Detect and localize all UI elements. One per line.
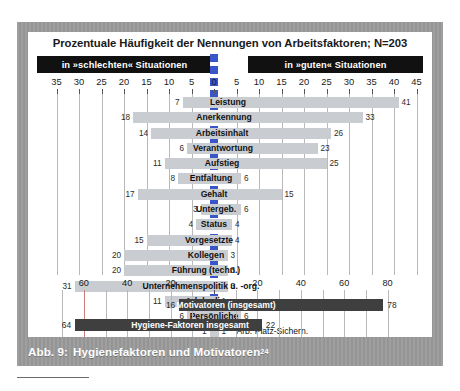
summary-value-positive: 22	[262, 318, 275, 332]
value-label-positive: 15	[282, 188, 294, 201]
summary-value-positive: 78	[383, 298, 396, 312]
legend-band-schlechte-situationen: in »schlechten« Situationen	[37, 56, 212, 73]
bottom-axis-tick-label: 60	[79, 278, 89, 288]
chart-row: 154Vorgesetzte	[28, 233, 432, 248]
chart-row: 44Status	[28, 217, 432, 232]
value-label-negative: 8	[170, 172, 178, 185]
figure-caption: Abb. 9: Hygienefaktoren und Motivatoren …	[28, 340, 432, 362]
value-label-negative: 15	[134, 234, 146, 247]
caption-number: Abb. 9:	[28, 345, 68, 358]
footnote-rule	[17, 377, 89, 378]
category-label: Kollegen	[188, 249, 224, 262]
category-label: Vorgesetzte	[185, 234, 233, 247]
category-label: Entfaltung	[190, 172, 232, 185]
value-label-negative: 18	[121, 111, 133, 124]
value-label-positive: 4	[232, 234, 240, 247]
top-axis-tick-label: 20	[299, 76, 309, 87]
bottom-axis-tick-label: 60	[339, 278, 349, 288]
value-label-positive: 6	[241, 172, 249, 185]
value-label-positive: 6	[241, 203, 249, 216]
chart-row: 36Untergeb.	[28, 202, 432, 217]
top-axis-tick-label: 5	[234, 76, 239, 87]
chart-row: 741Leistung	[28, 95, 432, 110]
summary-row: 6422Hygiene-Faktoren insgesamt	[28, 316, 432, 336]
value-label-negative: 17	[125, 188, 137, 201]
top-axis-tick-label: 20	[119, 76, 129, 87]
top-axis: 3530252015105051015202530354045	[28, 76, 432, 94]
category-label: Anerkennung	[196, 111, 251, 124]
chart-row: 1833Anerkennung	[28, 110, 432, 125]
category-label: Aufstieg	[205, 157, 239, 170]
value-label-negative: 14	[139, 127, 151, 140]
bottom-axis-tick-label: 20	[165, 278, 175, 288]
value-label-positive: 3	[228, 249, 236, 262]
value-label-negative: 6	[179, 142, 187, 155]
summary-category-label: Motivatoren (insgesamt)	[176, 298, 275, 312]
summary-rows: 1678Motivatoren (insgesamt)6422Hygiene-F…	[28, 296, 432, 336]
bottom-axis-tick-label: 20	[252, 278, 262, 288]
chart-row: 203Kollegen	[28, 248, 432, 263]
summary-category-label: Hygiene-Faktoren insgesamt	[131, 318, 248, 332]
chart-row: 86Entfaltung	[28, 171, 432, 186]
top-axis-tick-label: 35	[366, 76, 376, 87]
legend-band-left-label: in »schlechten« Situationen	[62, 60, 188, 70]
chart-title: Prozentuale Häufigkeit der Nennungen von…	[28, 37, 432, 49]
value-label-negative: 11	[153, 157, 165, 170]
caption-footnote-marker: 24	[260, 347, 268, 356]
bottom-axis-tick-label: 40	[122, 278, 132, 288]
summary-value-negative: 64	[62, 318, 75, 332]
value-label-negative: 20	[112, 264, 124, 277]
chart-row: 1715Gehalt	[28, 187, 432, 202]
category-label: Führung (techn.)	[172, 264, 240, 277]
top-axis-tick-label: 10	[164, 76, 174, 87]
figure-mount: Prozentuale Häufigkeit der Nennungen von…	[17, 22, 443, 366]
value-label-negative: 20	[112, 249, 124, 262]
value-label-negative: 4	[188, 218, 196, 231]
bottom-axis-tick-label: 40	[296, 278, 306, 288]
value-label-positive: 25	[327, 157, 339, 170]
value-label-positive: 41	[399, 96, 411, 109]
top-axis-tick-label: 30	[344, 76, 354, 87]
category-label: Arbeitsinhalt	[196, 127, 249, 140]
chart-row: 623Verantwortung	[28, 141, 432, 156]
top-axis-tick-label: 0	[211, 76, 216, 87]
legend-band-gute-situationen: in »guten« Situationen	[248, 56, 423, 73]
top-axis-tick-label: 5	[189, 76, 194, 87]
chart-row: 1125Aufstieg	[28, 156, 432, 171]
top-axis-tick-mark	[214, 89, 215, 94]
chart-panel: Prozentuale Häufigkeit der Nennungen von…	[28, 32, 432, 337]
value-label-positive: 33	[363, 111, 375, 124]
legend-band-right-label: in »guten« Situationen	[285, 60, 387, 70]
category-label: Untergeb.	[196, 203, 236, 216]
value-label-positive: 4	[232, 218, 240, 231]
top-axis-tick-label: 25	[321, 76, 331, 87]
value-label-positive: 26	[331, 127, 343, 140]
top-axis-tick-label: 40	[389, 76, 399, 87]
summary-row: 1678Motivatoren (insgesamt)	[28, 296, 432, 316]
top-axis-tick-label: 25	[96, 76, 106, 87]
top-axis-tick-label: 45	[411, 76, 421, 87]
top-axis-tick-label: 15	[276, 76, 286, 87]
top-axis-tick-label: 35	[51, 76, 61, 87]
value-label-positive: 23	[318, 142, 330, 155]
caption-title: Hygienefaktoren und Motivatoren	[73, 345, 260, 358]
category-label: Verantwortung	[193, 142, 253, 155]
bottom-axis: 60402020406080	[28, 278, 432, 294]
top-axis-tick-label: 30	[74, 76, 84, 87]
category-label: Status	[201, 218, 227, 231]
top-axis-tick-label: 10	[254, 76, 264, 87]
value-label-negative: 7	[175, 96, 183, 109]
category-label: Leistung	[210, 96, 246, 109]
bottom-axis-tick-mark	[214, 290, 215, 294]
top-axis-tick-label: 15	[141, 76, 151, 87]
chart-row: 203Führung (techn.)	[28, 263, 432, 278]
bottom-axis-tick-label: 80	[382, 278, 392, 288]
category-label: Gehalt	[201, 188, 228, 201]
chart-row: 1426Arbeitsinhalt	[28, 126, 432, 141]
